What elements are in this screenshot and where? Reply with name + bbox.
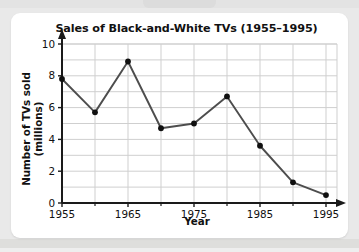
x-axis-tick-label: 1955 (49, 208, 75, 220)
y-axis-tick-label: 0 (48, 197, 55, 209)
plot-area: 024681019551965197519851995 (11, 13, 348, 238)
axis-tick-labels-layer: 024681019551965197519851995 (42, 38, 339, 220)
y-axis-tick-label: 6 (48, 101, 55, 113)
data-point-marker (92, 109, 98, 115)
data-point-marker (224, 94, 230, 100)
y-axis-arrowhead (58, 29, 66, 39)
data-point-marker (158, 125, 164, 131)
y-axis-tick-label: 4 (48, 133, 55, 145)
data-point-marker (59, 76, 65, 82)
chart-card: Sales of Black-and-White TVs (1955–1995)… (11, 13, 348, 238)
grid-layer (62, 44, 337, 203)
y-axis-tick-label: 10 (42, 38, 55, 50)
data-point-marker (257, 143, 263, 149)
line-chart-svg: 024681019551965197519851995 (11, 13, 348, 238)
x-axis-tick-label: 1965 (115, 208, 141, 220)
data-point-marker (125, 59, 131, 65)
data-point-marker (191, 121, 197, 127)
x-axis-tick-label: 1975 (181, 208, 207, 220)
x-axis-tick-label: 1985 (247, 208, 273, 220)
y-axis-tick-label: 8 (48, 69, 55, 81)
page-bottom-strip-secondary (0, 248, 359, 252)
data-point-marker (323, 192, 329, 198)
data-point-marker (290, 179, 296, 185)
x-axis-arrowhead (336, 199, 346, 207)
page-top-tab-shape (143, 0, 216, 8)
x-axis-tick-label: 1995 (313, 208, 339, 220)
screenshot-root: Sales of Black-and-White TVs (1955–1995)… (0, 0, 359, 252)
y-axis-tick-label: 2 (48, 165, 55, 177)
